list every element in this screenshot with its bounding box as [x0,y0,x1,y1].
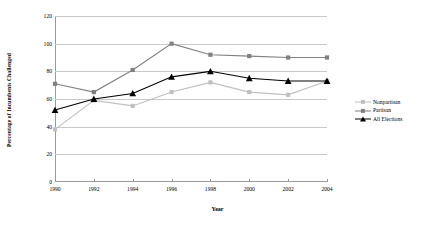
x-axis-tick-label: 1994 [127,186,138,192]
data-point [131,68,135,72]
y-axis-tick-label: 60 [46,96,52,102]
data-point [247,54,251,58]
y-axis-title: Percentage of Incumbents Challenged [6,53,12,147]
data-point [247,90,251,94]
y-axis-title-wrap: Percentage of Incumbents Challenged [2,0,16,200]
data-point [286,93,290,97]
data-point [92,90,96,94]
triangle-marker-icon [355,115,371,123]
legend-label: Nonpartisan [373,98,400,106]
x-axis-tick-mark [327,179,328,182]
data-point [129,90,136,96]
legend-item-partisan[interactable]: Partisan [355,106,402,114]
x-axis-tick-label: 2002 [283,186,294,192]
series-partisan [53,42,329,95]
y-axis-tick-label: 120 [44,13,52,19]
square-marker-icon [355,98,371,106]
chart-legend: NonpartisanPartisanAll Elections [355,98,402,123]
data-point [53,82,57,86]
y-axis-tick-label: 100 [44,41,52,47]
line-chart: Percentage of Incumbents Challenged 0204… [0,0,435,243]
series-nonpartisan [53,79,329,132]
x-axis-title: Year [0,206,435,212]
square-marker-icon [355,107,371,115]
data-point [208,80,212,84]
x-axis-tick-label: 1992 [88,186,99,192]
x-axis-tick-label: 2004 [321,186,332,192]
series-lines [55,16,327,182]
x-axis-tick-label: 1996 [166,186,177,192]
x-axis-tick-label: 2000 [244,186,255,192]
data-point [53,127,57,131]
legend-item-nonpartisan[interactable]: Nonpartisan [355,98,402,106]
plot-area: 020406080100120 199019921994199619982000… [55,16,327,182]
y-axis-tick-label: 80 [46,68,52,74]
legend-label: Partisan [373,106,391,114]
x-axis-tick-label: 1998 [205,186,216,192]
y-axis-tick-label: 20 [46,151,52,157]
legend-item-all-elections[interactable]: All Elections [355,115,402,123]
data-point [208,53,212,57]
data-point [325,55,329,59]
x-axis-tick-label: 1990 [49,186,60,192]
legend-label: All Elections [373,115,402,123]
data-point [207,68,214,74]
data-point [286,55,290,59]
data-point [169,90,173,94]
data-point [169,42,173,46]
data-point [131,104,135,108]
y-axis-tick-label: 0 [49,179,52,185]
y-axis-tick-label: 40 [46,124,52,130]
